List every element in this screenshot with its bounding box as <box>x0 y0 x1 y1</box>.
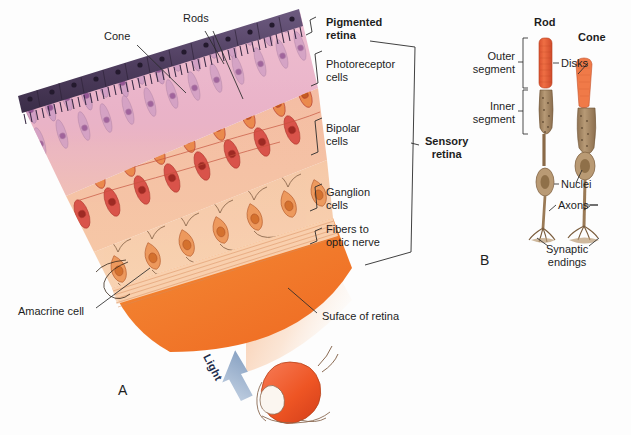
ganglion-cells-art <box>106 173 329 289</box>
figure-artwork <box>0 0 631 435</box>
panel-b-brackets <box>518 38 528 134</box>
light-arrow-art <box>221 350 253 402</box>
label-fibers-to-optic-nerve: Fibers to optic nerve <box>326 223 380 248</box>
retina-anatomy-figure: Cone Rods Pigmented retina Photoreceptor… <box>0 0 631 435</box>
label-nuclei: Nuclei <box>561 178 592 191</box>
label-rods: Rods <box>183 12 209 25</box>
retina-surface-layer <box>112 218 352 352</box>
label-cone-header: Cone <box>578 31 606 44</box>
label-ganglion-cells: Ganglion cells <box>326 186 370 211</box>
label-surface-of-retina: Suface of retina <box>322 310 399 323</box>
label-light: Light <box>201 352 225 383</box>
panel-b-leaders <box>537 63 599 246</box>
label-photoreceptor-cells: Photoreceptor cells <box>326 58 395 83</box>
label-pigmented-retina: Pigmented retina <box>326 16 382 41</box>
label-rod-header: Rod <box>534 16 555 29</box>
pigment-cell-divisions <box>37 17 282 107</box>
bipolar-cells-art <box>70 81 320 231</box>
bipolar-cell-layer <box>66 88 327 252</box>
label-synaptic-endings: Synaptic endings <box>546 243 588 268</box>
photoreceptor-cell-layer <box>20 12 318 196</box>
panel-label-b: B <box>480 252 489 268</box>
rod-cell-art <box>529 38 555 243</box>
label-outer-segment: Outer segment <box>449 50 515 75</box>
label-axons: Axons <box>558 199 589 212</box>
label-disks: Disks <box>561 57 588 70</box>
label-inner-segment: Inner segment <box>449 100 515 125</box>
photoreceptor-cells-art <box>21 2 308 157</box>
ganglion-cell-layer <box>94 160 333 288</box>
cone-cell-art <box>568 58 599 244</box>
pigment-cell-nuclei <box>27 16 294 101</box>
label-bipolar-cells: Bipolar cells <box>326 122 360 147</box>
nerve-fiber-striations <box>113 221 338 307</box>
label-amacrine-cell: Amacrine cell <box>18 305 84 318</box>
label-sensory-retina: Sensory retina <box>425 135 468 160</box>
leader-lines-a <box>96 31 317 313</box>
pigmented-epithelium <box>18 9 303 113</box>
amacrine-cell-art <box>96 260 130 299</box>
eye-inset-art <box>257 346 338 424</box>
panel-label-a: A <box>118 382 127 398</box>
label-cone: Cone <box>104 30 130 43</box>
light-fan <box>246 236 352 372</box>
pigment-microvilli <box>24 27 302 124</box>
